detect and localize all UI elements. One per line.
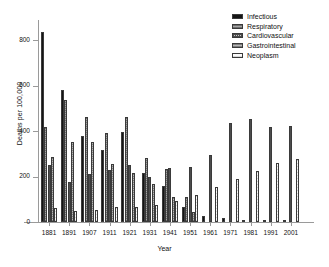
bar-group <box>39 22 59 222</box>
y-tick <box>33 177 38 178</box>
bar-neoplasm-1951 <box>195 195 198 222</box>
bar-group <box>200 22 220 222</box>
x-tick <box>210 222 211 226</box>
x-tick <box>150 222 151 226</box>
bar-cardiovascular-2001 <box>289 126 292 222</box>
legend-item-infectious: Infectious <box>232 12 296 22</box>
y-tick <box>33 40 38 41</box>
y-tick-label: 800 <box>0 37 30 44</box>
bar-neoplasm-1907 <box>95 210 98 223</box>
bar-infectious-1981 <box>242 220 245 222</box>
bar-neoplasm-1911 <box>115 207 118 222</box>
y-tick <box>33 222 38 223</box>
bar-infectious-1971 <box>222 218 225 222</box>
legend-swatch-icon <box>232 14 243 19</box>
x-tick <box>49 222 50 226</box>
bar-neoplasm-1891 <box>74 211 77 222</box>
x-axis-title: Year <box>0 245 329 252</box>
x-tick <box>69 222 70 226</box>
bar-group <box>59 22 79 222</box>
bar-neoplasm-1921 <box>135 207 138 222</box>
bar-gastrointestinal-1891 <box>71 142 74 222</box>
x-tick-label: 2001 <box>278 229 304 236</box>
chart-legend: InfectiousRespiratoryCardiovascularGastr… <box>232 12 296 60</box>
legend-label: Cardiovascular <box>247 32 294 39</box>
y-tick-label: 600 <box>0 82 30 89</box>
bar-infectious-1991 <box>263 220 266 222</box>
y-tick-label: 0 <box>0 219 30 226</box>
bar-group <box>180 22 200 222</box>
legend-label: Neoplasm <box>247 52 279 59</box>
bar-neoplasm-1931 <box>155 205 158 222</box>
bar-cardiovascular-1991 <box>269 127 272 222</box>
bar-neoplasm-1961 <box>215 187 218 222</box>
x-tick <box>89 222 90 226</box>
legend-item-respiratory: Respiratory <box>232 22 296 32</box>
x-tick <box>190 222 191 226</box>
x-tick <box>251 222 252 226</box>
legend-item-gastrointestinal: Gastrointestinal <box>232 41 296 51</box>
legend-item-cardiovascular: Cardiovascular <box>232 31 296 41</box>
bar-neoplasm-2001 <box>296 159 299 222</box>
x-tick <box>110 222 111 226</box>
x-tick <box>170 222 171 226</box>
bar-group <box>160 22 180 222</box>
y-tick-label: 400 <box>0 128 30 135</box>
bar-group <box>140 22 160 222</box>
y-axis-title: Deaths per 100,000 <box>16 54 23 174</box>
legend-label: Infectious <box>247 13 277 20</box>
x-tick <box>291 222 292 226</box>
legend-swatch-icon <box>232 53 243 58</box>
x-tick <box>230 222 231 226</box>
bar-neoplasm-1881 <box>54 208 57 222</box>
chart-figure: Deaths per 100,000 8006004002000 1881189… <box>0 0 329 267</box>
legend-label: Gastrointestinal <box>247 42 296 49</box>
bar-neoplasm-1981 <box>256 171 259 222</box>
bar-cardiovascular-1971 <box>229 123 232 222</box>
y-tick <box>33 131 38 132</box>
y-tick-label: 200 <box>0 173 30 180</box>
legend-swatch-icon <box>232 43 243 48</box>
x-tick <box>271 222 272 226</box>
bar-group <box>79 22 99 222</box>
bar-neoplasm-1941 <box>175 201 178 222</box>
bar-group <box>99 22 119 222</box>
bar-cardiovascular-1961 <box>209 155 212 222</box>
legend-swatch-icon <box>232 33 243 38</box>
x-tick <box>130 222 131 226</box>
bar-infectious-2001 <box>283 220 286 222</box>
legend-item-neoplasm: Neoplasm <box>232 50 296 60</box>
y-tick <box>33 86 38 87</box>
bar-infectious-1961 <box>202 216 205 222</box>
bar-group <box>120 22 140 222</box>
bar-neoplasm-1991 <box>276 163 279 222</box>
legend-label: Respiratory <box>247 23 283 30</box>
bar-cardiovascular-1981 <box>249 119 252 222</box>
bar-neoplasm-1971 <box>236 179 239 222</box>
legend-swatch-icon <box>232 24 243 29</box>
